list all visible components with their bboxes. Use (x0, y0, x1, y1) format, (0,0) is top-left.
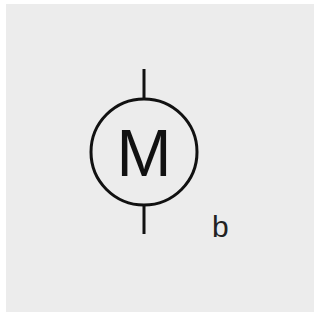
caption-label: b (212, 212, 229, 242)
motor-letter: M (117, 116, 172, 190)
motor-symbol-icon: M (0, 0, 327, 322)
